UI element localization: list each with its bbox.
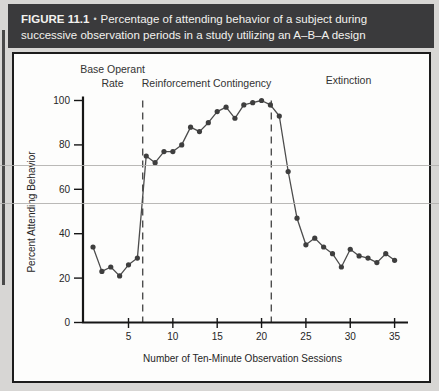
data-point	[170, 149, 175, 154]
y-tick-label: 60	[59, 184, 71, 195]
y-tick-label: 80	[59, 139, 71, 150]
phase-label: Reinforcement Contingency	[142, 77, 272, 89]
x-axis-title: Number of Ten-Minute Observation Session…	[143, 353, 342, 364]
bullet-icon: •	[89, 14, 100, 24]
data-point	[223, 105, 228, 110]
x-tick-label: 35	[389, 331, 401, 342]
y-tick-label: 40	[59, 228, 71, 239]
figure-panel: Base OperantRateReinforcement Contingenc…	[12, 52, 431, 383]
scan-edge-artifact	[2, 30, 5, 285]
data-point	[99, 269, 104, 274]
page: { "header": { "label": "FIGURE 11.1", "b…	[0, 0, 439, 391]
data-point	[161, 149, 166, 154]
data-point	[268, 102, 273, 107]
data-point	[188, 125, 193, 130]
scan-line-artifact	[0, 203, 439, 204]
axes	[83, 97, 408, 323]
scan-line-artifact	[0, 165, 439, 166]
x-tick-label: 25	[300, 331, 312, 342]
data-point	[383, 251, 388, 256]
x-tick-label: 10	[167, 331, 179, 342]
phase-label: Rate	[101, 77, 123, 89]
x-tick-label: 15	[212, 331, 224, 342]
data-point	[259, 98, 264, 103]
data-point	[348, 247, 353, 252]
attending-behavior-chart: Base OperantRateReinforcement Contingenc…	[14, 54, 428, 380]
y-tick-label: 100	[53, 95, 70, 106]
data-point	[286, 169, 291, 174]
data-point	[126, 262, 131, 267]
x-tick-label: 20	[256, 331, 268, 342]
data-point	[303, 242, 308, 247]
figure-number-label: FIGURE 11.1	[21, 13, 89, 25]
data-point	[90, 244, 95, 249]
x-tick-label: 30	[345, 331, 357, 342]
data-point	[206, 120, 211, 125]
data-point	[232, 116, 237, 121]
data-point	[330, 251, 335, 256]
data-point	[374, 260, 379, 265]
data-point	[392, 258, 397, 263]
data-point	[117, 273, 122, 278]
data-point	[215, 109, 220, 114]
data-point	[321, 244, 326, 249]
data-point	[339, 264, 344, 269]
data-point	[277, 113, 282, 118]
data-point	[357, 253, 362, 258]
data-point	[108, 264, 113, 269]
data-point	[135, 256, 140, 261]
data-point	[197, 129, 202, 134]
phase-label: Extinction	[326, 74, 372, 86]
y-tick-label: 20	[59, 273, 71, 284]
data-point	[241, 102, 246, 107]
figure-header: FIGURE 11.1•Percentage of attending beha…	[8, 4, 434, 48]
phase-label: Base Operant	[80, 63, 145, 75]
x-tick-label: 5	[126, 331, 132, 342]
y-tick-label: 0	[64, 317, 70, 328]
y-axis-title: Percent Attending Behavior	[26, 151, 37, 273]
data-point	[294, 216, 299, 221]
data-point	[312, 236, 317, 241]
data-point	[179, 142, 184, 147]
data-point	[250, 100, 255, 105]
data-point	[365, 256, 370, 261]
data-point	[144, 153, 149, 158]
